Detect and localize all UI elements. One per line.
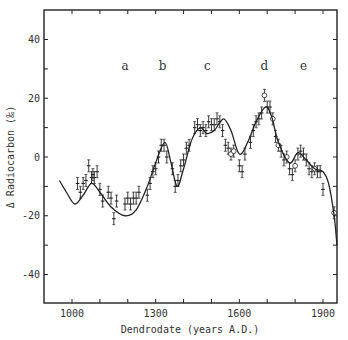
data-point bbox=[198, 125, 202, 137]
y-tick-label: 0 bbox=[34, 152, 40, 163]
data-point bbox=[318, 166, 322, 178]
data-point bbox=[221, 125, 225, 137]
y-tick-label: -20 bbox=[22, 210, 40, 221]
x-tick-label: 1600 bbox=[227, 308, 251, 319]
x-tick-label: 1300 bbox=[144, 308, 168, 319]
data-point bbox=[95, 166, 99, 178]
fitted-curve bbox=[59, 107, 336, 245]
data-point bbox=[165, 151, 169, 163]
data-point bbox=[224, 139, 228, 151]
data-point bbox=[293, 160, 298, 172]
data-point bbox=[134, 192, 138, 204]
data-point bbox=[321, 183, 325, 195]
data-point bbox=[76, 177, 80, 189]
data-point bbox=[238, 160, 242, 172]
data-point bbox=[207, 116, 211, 128]
radiocarbon-chart: 1000130016001900 -40-2002040 abcde Dendr… bbox=[0, 0, 348, 340]
period-label-e: e bbox=[300, 59, 307, 73]
x-tick-label: 1000 bbox=[60, 308, 84, 319]
y-axis-title: Δ Radiocarbon (‰) bbox=[5, 106, 16, 208]
period-label-d: d bbox=[261, 59, 269, 73]
period-label-c: c bbox=[204, 59, 211, 73]
x-axis-title: Dendrodate (years A.D.) bbox=[121, 324, 259, 335]
data-point bbox=[179, 160, 183, 172]
data-point bbox=[123, 198, 127, 210]
data-point bbox=[81, 177, 85, 189]
data-point bbox=[84, 175, 88, 187]
data-point bbox=[115, 195, 119, 207]
data-points bbox=[76, 89, 337, 224]
y-tick-label: 20 bbox=[28, 93, 40, 104]
data-point bbox=[126, 192, 130, 204]
data-point bbox=[87, 160, 91, 172]
period-label-b: b bbox=[159, 59, 167, 73]
data-point bbox=[262, 89, 267, 101]
data-point bbox=[240, 166, 244, 178]
period-annotations: abcde bbox=[121, 59, 307, 73]
period-label-a: a bbox=[121, 59, 128, 73]
y-tick-label: -40 bbox=[22, 269, 40, 280]
plot-border bbox=[44, 10, 337, 303]
y-axis-ticks: -40-2002040 bbox=[22, 34, 337, 280]
data-point bbox=[112, 213, 116, 225]
y-tick-label: 40 bbox=[28, 34, 40, 45]
plot-frame bbox=[44, 10, 337, 303]
data-point bbox=[106, 186, 110, 198]
data-point bbox=[109, 192, 113, 204]
data-point bbox=[288, 163, 292, 175]
data-point bbox=[137, 186, 141, 198]
data-point bbox=[215, 113, 219, 125]
data-point bbox=[291, 169, 295, 181]
x-tick-label: 1900 bbox=[311, 308, 335, 319]
data-point bbox=[129, 198, 133, 210]
